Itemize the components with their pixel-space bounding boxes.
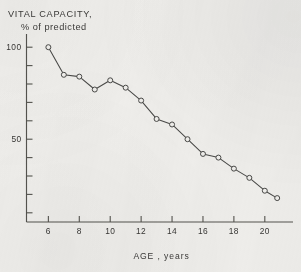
- data-point: [123, 85, 128, 90]
- data-point: [108, 78, 113, 83]
- x-tick-label: 18: [229, 226, 239, 236]
- data-point: [46, 45, 51, 50]
- data-series-markers: [46, 45, 280, 201]
- data-point: [139, 98, 144, 103]
- x-tick-label: 20: [260, 226, 270, 236]
- x-tick-label: 8: [77, 226, 82, 236]
- y-tick-label: 100: [6, 42, 21, 52]
- data-series-line: [48, 47, 277, 198]
- chart-figure: VITAL CAPACITY, % of predicted 50100 681…: [0, 0, 301, 272]
- data-point: [262, 188, 267, 193]
- x-tick-label: 10: [105, 226, 115, 236]
- x-tick-label: 12: [136, 226, 146, 236]
- data-point: [231, 166, 236, 171]
- data-point: [200, 151, 205, 156]
- x-tick-label: 6: [46, 226, 51, 236]
- data-point: [61, 72, 66, 77]
- data-point: [170, 122, 175, 127]
- data-point: [275, 196, 280, 201]
- x-tick-label: 16: [198, 226, 208, 236]
- axes: [27, 34, 294, 222]
- data-point: [92, 87, 97, 92]
- x-axis-ticks: [48, 216, 264, 222]
- x-axis-tick-labels: 68101214161820: [46, 226, 270, 236]
- y-axis-ticks: [27, 47, 33, 213]
- plot-area: 50100 68101214161820: [0, 0, 301, 272]
- data-point: [77, 74, 82, 79]
- y-axis-tick-labels: 50100: [6, 42, 21, 144]
- data-point: [247, 175, 252, 180]
- data-point: [216, 155, 221, 160]
- x-tick-label: 14: [167, 226, 177, 236]
- data-point: [185, 137, 190, 142]
- data-point: [154, 116, 159, 121]
- y-tick-label: 50: [11, 134, 21, 144]
- x-axis-title: AGE , years: [0, 251, 301, 261]
